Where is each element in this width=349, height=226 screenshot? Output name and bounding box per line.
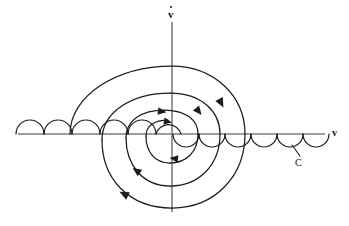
leader-line [292, 145, 300, 156]
arrow-inner-upper-left [157, 107, 166, 116]
arrow-inner-lower-right [169, 154, 178, 162]
arrow-outer-lower-left [118, 188, 130, 200]
scallop-arc-left [156, 125, 181, 134]
spiral-segment-outer-upper-left [70, 66, 172, 134]
spiral-trajectory [70, 66, 245, 208]
scallop-arc-left [72, 120, 100, 134]
curve-c-label: C [295, 158, 302, 168]
spiral-segment-inner-lower-left [146, 136, 170, 163]
phase-plane-figure: v v C [0, 0, 349, 226]
vdot-axis-label: v [168, 6, 174, 20]
scallop-arc-left [44, 120, 72, 134]
scallop-arc-right [199, 134, 225, 147]
arrow-outer-upper-right [215, 97, 227, 109]
scallop-arc-right [303, 134, 329, 147]
phase-plane-canvas [0, 0, 349, 226]
arrow-mid-upper-right [193, 106, 205, 118]
scallop-arc-right [225, 134, 251, 147]
spiral-segment-outer-upper-right [172, 66, 245, 134]
scallop-arc-right [277, 134, 303, 147]
spiral-segment-outer-lower-right [172, 134, 245, 208]
scallop-arc-right [173, 134, 199, 147]
curve-c-leader-line [292, 145, 300, 156]
scallop-arc-right [251, 134, 277, 147]
v-axis-label: v [332, 128, 337, 138]
vdot-axis-label-text: v [168, 8, 174, 20]
spiral-segment-mid-upper-left [102, 93, 170, 140]
axes-group [18, 22, 325, 212]
scallop-arc-left [16, 120, 44, 134]
